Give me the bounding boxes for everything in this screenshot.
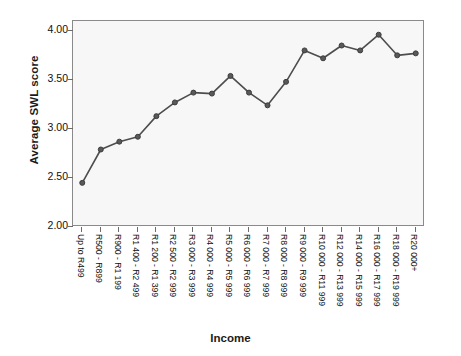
data-point <box>321 56 326 61</box>
series-line <box>82 35 415 183</box>
data-point <box>154 114 159 119</box>
x-tick-label: R18 000 - R19 999 <box>391 234 400 307</box>
chart-figure: Average SWL score 2.002.503.003.504.00 I… <box>0 0 461 356</box>
y-axis-ticks: 2.002.503.003.504.00 <box>24 0 68 356</box>
x-tick-mark <box>100 227 101 232</box>
x-tick-mark <box>378 227 379 232</box>
data-point <box>209 91 214 96</box>
x-tick-mark <box>248 227 249 232</box>
x-tick-label: R10 000 - R11 999 <box>317 234 326 306</box>
x-tick-mark <box>155 227 156 232</box>
y-tick-mark <box>68 128 73 129</box>
x-tick-label: Up to R499 <box>76 234 85 277</box>
x-tick-label: R500 - R899 <box>95 234 104 283</box>
x-tick-mark <box>118 227 119 232</box>
data-point <box>395 53 400 58</box>
x-tick-label: R1 400 - R2 499 <box>132 234 141 297</box>
x-tick-mark <box>81 227 82 232</box>
x-tick-mark <box>211 227 212 232</box>
y-tick-label: 3.50 <box>26 73 68 84</box>
x-tick-mark <box>137 227 138 232</box>
x-tick-label: R5 000 - R5 999 <box>224 234 233 297</box>
x-tick-mark <box>396 227 397 232</box>
x-tick-label: R20 000+ <box>410 234 419 272</box>
x-tick-label: R3 000 - R3 999 <box>187 234 196 297</box>
data-point <box>247 90 252 95</box>
x-tick-label: R14 000 - R15 999 <box>354 234 363 307</box>
y-tick-mark <box>68 30 73 31</box>
data-point <box>302 48 307 53</box>
x-tick-mark <box>285 227 286 232</box>
data-point <box>80 180 85 185</box>
x-tick-mark <box>415 227 416 232</box>
y-tick-label: 4.00 <box>26 24 68 35</box>
data-point <box>172 100 177 105</box>
x-tick-mark <box>267 227 268 232</box>
series-line-chart <box>73 21 425 227</box>
x-tick-mark <box>359 227 360 232</box>
x-tick-label: R900 - R1 199 <box>113 234 122 290</box>
x-tick-mark <box>322 227 323 232</box>
data-point <box>413 51 418 56</box>
series-markers <box>80 32 418 185</box>
x-tick-label: R9 000 - R9 999 <box>298 234 307 297</box>
x-axis-title: Income <box>0 332 461 344</box>
data-point <box>117 139 122 144</box>
data-point <box>376 32 381 37</box>
y-tick-mark <box>68 79 73 80</box>
x-tick-label: R2 500 - R2 999 <box>169 234 178 297</box>
x-tick-label: R4 000 - R4 999 <box>206 234 215 297</box>
x-tick-mark <box>229 227 230 232</box>
x-tick-mark <box>341 227 342 232</box>
data-point <box>265 103 270 108</box>
y-tick-label: 3.00 <box>26 122 68 133</box>
x-tick-label: R6 000 - R6 999 <box>243 234 252 297</box>
x-tick-label: R1 200 - R1 399 <box>150 234 159 297</box>
x-tick-mark <box>174 227 175 232</box>
x-tick-label: R8 000 - R8 999 <box>280 234 289 297</box>
x-tick-label: R16 000 - R17 999 <box>372 234 381 307</box>
x-tick-label: R12 000 - R13 999 <box>335 234 344 307</box>
y-tick-label: 2.00 <box>26 220 68 231</box>
x-tick-label: R7 000 - R7 999 <box>261 234 270 297</box>
data-point <box>135 134 140 139</box>
data-point <box>191 90 196 95</box>
data-point <box>228 73 233 78</box>
data-point <box>98 147 103 152</box>
data-point <box>339 43 344 48</box>
x-tick-mark <box>304 227 305 232</box>
y-tick-mark <box>68 177 73 178</box>
data-point <box>284 79 289 84</box>
data-point <box>358 48 363 53</box>
y-tick-mark <box>68 226 73 227</box>
y-tick-label: 2.50 <box>26 171 68 182</box>
x-tick-mark <box>192 227 193 232</box>
plot-area <box>72 20 424 226</box>
